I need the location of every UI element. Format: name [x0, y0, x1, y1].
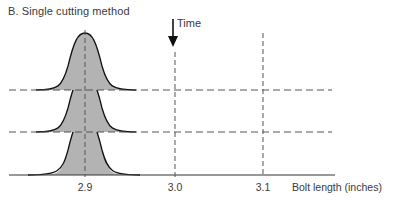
time-label: Time [177, 17, 201, 29]
diagram-canvas [0, 0, 395, 198]
x-axis-label: Bolt length (inches) [292, 181, 382, 193]
single-cutting-method-diagram: B. Single cutting method [0, 0, 395, 198]
distribution-1 [36, 33, 136, 90]
tick-label-2-9: 2.9 [78, 181, 93, 193]
tick-label-3-0: 3.0 [168, 181, 183, 193]
tick-label-3-1: 3.1 [256, 181, 271, 193]
